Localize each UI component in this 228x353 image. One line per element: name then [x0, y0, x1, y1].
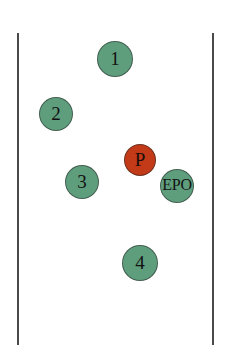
- player-node-1[interactable]: 1: [97, 41, 133, 77]
- player-node-4-label: 4: [135, 253, 145, 272]
- player-node-p-label: P: [135, 150, 146, 169]
- player-node-epo-label: EPO: [162, 177, 191, 193]
- right-boundary-line: [212, 33, 214, 345]
- player-node-3[interactable]: 3: [65, 165, 99, 199]
- player-node-2[interactable]: 2: [39, 97, 73, 131]
- player-node-epo[interactable]: EPO: [160, 169, 194, 203]
- player-node-1-label: 1: [110, 49, 120, 68]
- player-node-4[interactable]: 4: [122, 245, 158, 281]
- left-boundary-line: [17, 33, 19, 345]
- player-node-3-label: 3: [77, 172, 87, 191]
- player-node-p[interactable]: P: [124, 144, 156, 176]
- player-node-2-label: 2: [51, 104, 61, 123]
- diagram-canvas: 1 2 P 3 EPO 4: [0, 0, 228, 353]
